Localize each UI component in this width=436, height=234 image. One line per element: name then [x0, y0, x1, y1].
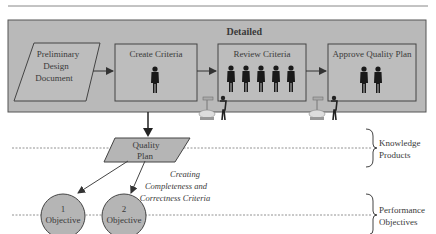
annotation-line-1: Creating [170, 169, 200, 179]
knowledge-label-1: Knowledge [379, 138, 421, 148]
step-label-approve: Approve Quality Plan [333, 49, 412, 59]
performance-label-2: Objectives [379, 217, 418, 227]
performance-brace [366, 194, 377, 234]
process-diagram: Detailed Preliminary Design Document Cre… [0, 0, 436, 234]
performance-label-1: Performance [379, 205, 425, 215]
arrow-to-objective-1 [78, 161, 128, 193]
step-label-create: Create Criteria [129, 49, 182, 59]
annotation-line-2: Completeness and [145, 181, 208, 191]
arrow-to-objective-2 [131, 161, 145, 193]
step-label-review: Review Criteria [233, 49, 290, 59]
quality-plan-line-2: Plan [137, 151, 154, 161]
objective-2 [102, 194, 146, 234]
objective-1-label: Objective [46, 215, 81, 225]
objective-2-number: 2 [122, 204, 127, 214]
panel-title: Detailed [226, 26, 262, 37]
annotation-line-3: Correctness Criteria [140, 193, 210, 203]
objective-1 [41, 194, 85, 234]
doc-line-3: Document [35, 73, 73, 83]
objective-2-label: Objective [107, 215, 142, 225]
doc-line-1: Preliminary [37, 49, 80, 59]
knowledge-label-2: Products [379, 150, 411, 160]
doc-line-2: Design [43, 61, 69, 71]
arrow-head [143, 128, 153, 137]
knowledge-brace [366, 129, 377, 167]
objective-1-number: 1 [61, 204, 66, 214]
quality-plan-line-1: Quality [133, 140, 160, 150]
